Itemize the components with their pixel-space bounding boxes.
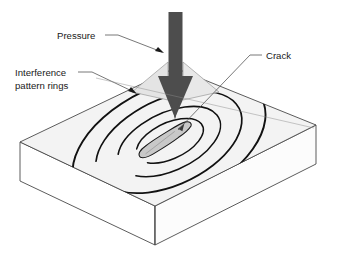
label-interference-line2: pattern rings	[15, 80, 69, 91]
leader-pressure-line	[118, 35, 162, 52]
label-interference-line1: Interference	[15, 67, 66, 78]
diagram-root: Pressure Interference pattern rings Crac…	[0, 0, 337, 260]
label-pressure: Pressure	[57, 30, 95, 41]
arrow-shaft	[169, 12, 183, 80]
label-crack: Crack	[266, 50, 291, 61]
leader-pressure-arrowhead	[155, 47, 164, 53]
pressure-crack-interference-diagram: Pressure Interference pattern rings Crac…	[0, 0, 337, 260]
